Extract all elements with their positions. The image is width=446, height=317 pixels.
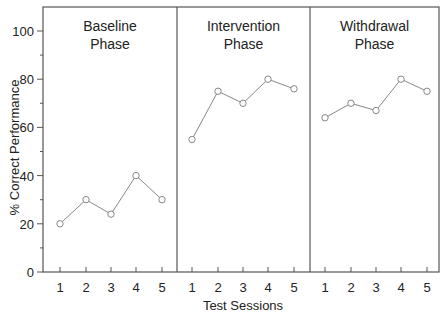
data-point-marker [189, 136, 195, 142]
series-line [192, 79, 294, 139]
phase-label: Withdrawal [340, 18, 409, 34]
y-tick-label: 0 [27, 265, 34, 280]
x-axis-title: Test Sessions [203, 298, 284, 313]
data-point-marker [133, 172, 139, 178]
y-axis-title: % Correct Performance [7, 80, 22, 216]
data-point-marker [424, 88, 430, 94]
x-tick-label: 1 [321, 280, 328, 295]
x-tick-label: 4 [132, 280, 139, 295]
data-point-marker [373, 107, 379, 113]
data-point-marker [265, 76, 271, 82]
data-point-marker [322, 115, 328, 121]
phase-label: Phase [90, 36, 130, 52]
chart: 020406080100% Correct PerformanceBaselin… [0, 0, 446, 317]
phase-label: Intervention [207, 18, 280, 34]
phase-label: Baseline [83, 18, 137, 34]
data-point-marker [159, 197, 165, 203]
y-tick-label: 100 [12, 24, 34, 39]
x-tick-label: 3 [107, 280, 114, 295]
x-tick-label: 4 [397, 280, 404, 295]
x-tick-label: 3 [239, 280, 246, 295]
data-point-marker [108, 211, 114, 217]
data-point-marker [291, 86, 297, 92]
data-point-marker [57, 221, 63, 227]
x-tick-label: 5 [158, 280, 165, 295]
data-point-marker [398, 76, 404, 82]
y-tick-label: 20 [20, 217, 34, 232]
data-point-marker [348, 100, 354, 106]
x-tick-label: 2 [347, 280, 354, 295]
data-point-marker [215, 88, 221, 94]
x-tick-label: 1 [56, 280, 63, 295]
x-tick-label: 2 [82, 280, 89, 295]
x-tick-label: 5 [423, 280, 430, 295]
x-tick-label: 3 [372, 280, 379, 295]
x-tick-label: 1 [188, 280, 195, 295]
x-tick-label: 4 [264, 280, 271, 295]
data-point-marker [83, 197, 89, 203]
phase-label: Phase [355, 36, 395, 52]
x-tick-label: 2 [214, 280, 221, 295]
data-point-marker [240, 100, 246, 106]
x-tick-label: 5 [290, 280, 297, 295]
phase-label: Phase [224, 36, 264, 52]
